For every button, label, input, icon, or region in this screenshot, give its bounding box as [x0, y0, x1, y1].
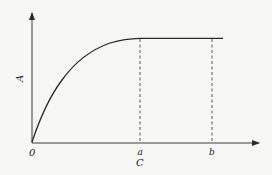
x-tick-b: b	[209, 147, 215, 157]
data-curve	[32, 38, 223, 142]
chart-svg: 0 a b C A	[0, 0, 272, 175]
x-tick-a: a	[138, 147, 143, 157]
y-axis-label: A	[14, 75, 25, 83]
origin-label: 0	[29, 147, 36, 158]
x-axis-label: C	[136, 157, 144, 168]
chart-container: 0 a b C A	[0, 0, 272, 175]
